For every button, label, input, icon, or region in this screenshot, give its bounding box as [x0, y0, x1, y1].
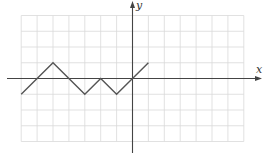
chart-canvas: x y: [0, 0, 267, 155]
x-axis-label: x: [256, 63, 263, 76]
y-axis-label: y: [135, 0, 143, 12]
y-axis-arrow-icon: [130, 1, 135, 8]
coordinate-graph: x y: [0, 0, 267, 155]
x-axis-arrow-icon: [255, 76, 262, 81]
